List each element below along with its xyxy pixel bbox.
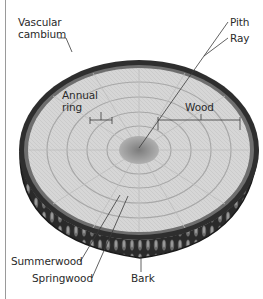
label-bark: Bark <box>131 272 155 284</box>
label-vascular-cambium-line1: Vascular <box>18 16 62 28</box>
label-annual-ring: Annual ring <box>62 89 98 113</box>
label-wood: Wood <box>185 101 214 113</box>
label-annual-ring-line1: Annual <box>62 89 98 101</box>
label-vascular-cambium-line2: cambium <box>18 28 66 40</box>
label-summerwood: Summerwood <box>11 255 83 267</box>
pith <box>119 136 159 164</box>
label-pith: Pith <box>230 16 249 28</box>
label-springwood: Springwood <box>32 272 93 284</box>
label-ray: Ray <box>230 32 249 44</box>
label-vascular-cambium: Vascular cambium <box>18 16 66 40</box>
label-annual-ring-line2: ring <box>62 101 82 113</box>
